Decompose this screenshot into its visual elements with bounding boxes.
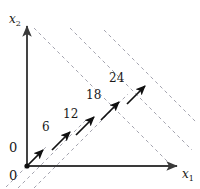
gradient-arrow-1 xyxy=(28,150,43,165)
axis-group xyxy=(27,26,177,166)
gradient-arrow-4 xyxy=(101,102,119,120)
gradient-arrow-3 xyxy=(76,117,94,135)
contour-label-12: 12 xyxy=(63,108,78,120)
contour-label-24: 24 xyxy=(109,72,124,84)
y-axis-zero-label: 0 xyxy=(9,141,17,154)
gradient-arrow-5 xyxy=(127,86,145,104)
contour-label-6: 6 xyxy=(42,121,50,133)
level-curve-line-6 xyxy=(18,118,88,188)
gradient-arrow-2 xyxy=(52,132,70,150)
origin-label: 0 xyxy=(9,169,17,182)
contour-label-18: 18 xyxy=(86,89,101,101)
x-axis-label: x1 xyxy=(182,168,194,183)
level-curve-group xyxy=(6,28,196,188)
figure-canvas: x2 x1 0 0 6 12 18 24 xyxy=(0,0,200,189)
y-axis-label: x2 xyxy=(9,13,21,28)
